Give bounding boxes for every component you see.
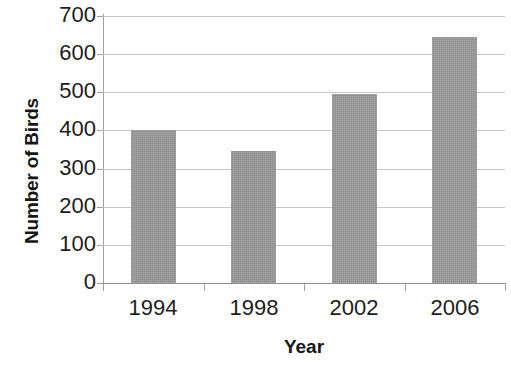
y-axis-tick-label: 700	[26, 4, 96, 26]
y-axis-tick-label: 600	[26, 42, 96, 64]
x-axis-tick-mark	[204, 284, 205, 291]
bar-1998	[231, 151, 276, 283]
x-axis-tick-mark	[505, 284, 506, 291]
x-axis-tick-label: 2002	[299, 296, 409, 320]
x-axis-tick-label: 1998	[199, 296, 309, 320]
gridline	[103, 16, 505, 17]
x-axis-tick-label: 2006	[400, 296, 510, 320]
x-axis-tick-label: 1994	[98, 296, 208, 320]
bar-2006	[432, 37, 477, 283]
x-axis-tick-mark	[304, 284, 305, 291]
bar-chart: Number of Birds 0100200300400500600700 1…	[0, 0, 511, 370]
x-axis-tick-mark	[103, 284, 104, 291]
y-axis-tick-label: 0	[26, 271, 96, 293]
y-axis-tick-label: 300	[26, 157, 96, 179]
bar-1994	[131, 130, 176, 283]
y-axis-tick-label: 200	[26, 195, 96, 217]
x-axis-tick-mark	[405, 284, 406, 291]
x-axis-title: Year	[103, 336, 505, 358]
y-axis-tick-label: 400	[26, 118, 96, 140]
y-axis-tick-label: 500	[26, 80, 96, 102]
plot-area	[103, 16, 505, 283]
bar-2002	[332, 94, 377, 283]
y-axis-tick-label: 100	[26, 233, 96, 255]
